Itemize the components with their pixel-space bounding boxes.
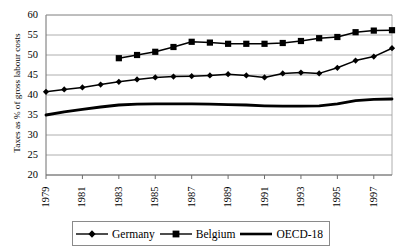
square-marker-icon xyxy=(159,228,193,240)
data-point xyxy=(389,45,395,51)
legend-item-germany: Germany xyxy=(75,228,159,240)
data-point xyxy=(298,38,304,44)
data-point xyxy=(61,86,67,92)
x-axis-tick: 1993 xyxy=(296,177,306,217)
data-point xyxy=(225,41,231,47)
data-point xyxy=(316,70,322,76)
y-axis-tick: 60 xyxy=(14,10,38,20)
y-axis-tick: 20 xyxy=(14,170,38,180)
data-point xyxy=(371,28,377,34)
data-point xyxy=(134,52,140,58)
data-point xyxy=(189,73,195,79)
data-point xyxy=(371,54,377,60)
x-axis-tick: 1989 xyxy=(223,177,233,217)
y-axis-tick: 30 xyxy=(14,130,38,140)
series-line-oecd-18 xyxy=(46,99,392,115)
legend-label-oecd18: OECD-18 xyxy=(273,228,327,240)
x-axis-tick: 1995 xyxy=(332,177,342,217)
diamond-marker-icon xyxy=(75,228,109,240)
y-axis-tick: 55 xyxy=(14,30,38,40)
data-point xyxy=(79,84,85,90)
series-line-belgium xyxy=(119,30,392,58)
data-point xyxy=(352,58,358,64)
data-point xyxy=(43,89,49,95)
x-axis-tick: 1997 xyxy=(369,177,379,217)
data-point xyxy=(280,40,286,46)
data-point xyxy=(134,76,140,82)
data-point xyxy=(207,40,213,46)
data-point xyxy=(280,70,286,76)
data-point xyxy=(334,65,340,71)
data-point xyxy=(389,27,395,33)
legend-label-belgium: Belgium xyxy=(193,228,240,240)
y-axis-tick: 45 xyxy=(14,70,38,80)
data-point xyxy=(189,39,195,45)
y-axis-tick: 50 xyxy=(14,50,38,60)
legend-label-germany: Germany xyxy=(109,228,159,240)
data-point xyxy=(170,74,176,80)
x-axis-tick: 1979 xyxy=(41,177,51,217)
data-point xyxy=(98,82,104,88)
data-point xyxy=(116,55,122,61)
line-chart: Taxes as % of gross labour costs Germany… xyxy=(0,0,402,249)
data-point xyxy=(352,29,358,35)
x-axis-tick: 1991 xyxy=(260,177,270,217)
data-point xyxy=(316,35,322,41)
legend-item-belgium: Belgium xyxy=(159,228,240,240)
y-axis-tick: 35 xyxy=(14,110,38,120)
y-axis-tick: 40 xyxy=(14,90,38,100)
data-point xyxy=(225,71,231,77)
data-point xyxy=(261,41,267,47)
data-point xyxy=(243,72,249,78)
data-point xyxy=(152,49,158,55)
legend-item-oecd18: OECD-18 xyxy=(239,228,327,240)
x-axis-tick: 1981 xyxy=(77,177,87,217)
data-point xyxy=(116,79,122,85)
x-axis-tick: 1985 xyxy=(150,177,160,217)
data-point xyxy=(170,44,176,50)
chart-legend: Germany Belgium OECD-18 xyxy=(72,221,330,246)
data-point xyxy=(334,34,340,40)
x-axis-tick: 1987 xyxy=(187,177,197,217)
x-axis-tick: 1983 xyxy=(114,177,124,217)
y-axis-tick: 25 xyxy=(14,150,38,160)
data-point xyxy=(207,72,213,78)
data-point xyxy=(243,41,249,47)
plain-line-icon xyxy=(239,228,273,240)
